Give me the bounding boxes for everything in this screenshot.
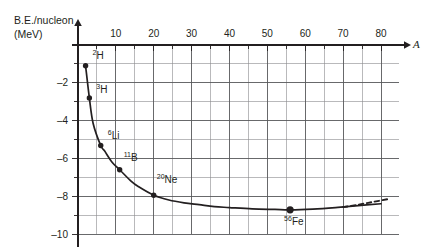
y-tick-label: –8 [57, 191, 69, 202]
chart-canvas: 1020304050607080 –2–4–6–8–10 2H3H6Li11B2… [0, 0, 431, 252]
y-tick-label: –6 [57, 153, 69, 164]
x-tick-label: 30 [186, 28, 198, 39]
y-tick-label: –4 [57, 115, 69, 126]
marker-56Fe [287, 206, 294, 213]
y-tick-label: –2 [57, 77, 69, 88]
y-axis-title-line2: (MeV) [14, 28, 43, 40]
marker-6Li [98, 143, 103, 148]
x-tick-label: 80 [375, 28, 387, 39]
marker-3H [87, 95, 92, 100]
x-axis-title: A [412, 38, 420, 50]
marker-2H [83, 63, 88, 68]
y-axis-title-line1: B.E./nucleon [14, 14, 74, 26]
x-tick-label: 10 [110, 28, 122, 39]
marker-20Ne [151, 193, 156, 198]
x-tick-label: 20 [148, 28, 160, 39]
x-tick-label: 70 [338, 28, 350, 39]
marker-11B [117, 167, 122, 172]
x-tick-label: 40 [224, 28, 236, 39]
y-tick-label: –10 [51, 229, 68, 240]
x-tick-label: 50 [262, 28, 274, 39]
binding-energy-chart: 1020304050607080 –2–4–6–8–10 2H3H6Li11B2… [0, 0, 431, 252]
x-tick-label: 60 [300, 28, 312, 39]
